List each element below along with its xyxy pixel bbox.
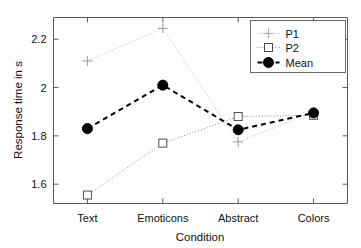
open-square-marker-icon	[234, 113, 242, 121]
x-tick-label: Emoticons	[137, 212, 189, 224]
response-time-line-chart: 1.61.822.2 TextEmoticonsAbstractColors R…	[0, 0, 361, 248]
open-square-marker-icon	[83, 191, 91, 199]
series-p2	[87, 115, 313, 195]
open-square-marker-icon	[265, 44, 273, 52]
series-line	[87, 85, 313, 130]
x-tick-label: Text	[77, 212, 97, 224]
x-tick-label: Colors	[298, 212, 330, 224]
filled-circle-marker-icon	[82, 124, 92, 134]
chart-figure: 1.61.822.2 TextEmoticonsAbstractColors R…	[0, 0, 361, 248]
legend-entry-mean[interactable]: Mean	[258, 57, 314, 69]
filled-circle-marker-icon	[233, 125, 243, 135]
x-axis-tick-labels: TextEmoticonsAbstractColors	[77, 212, 330, 224]
filled-circle-marker-icon	[264, 58, 274, 68]
legend-label: P1	[286, 28, 299, 40]
legend-label: Mean	[286, 57, 314, 69]
y-tick-label: 1.6	[31, 178, 46, 190]
y-axis-tick-labels: 1.61.822.2	[31, 33, 46, 190]
y-tick-label: 2.2	[31, 33, 46, 45]
plus-marker-icon	[158, 23, 168, 33]
x-axis-title: Condition	[176, 231, 225, 243]
markers-p2	[83, 111, 317, 199]
open-square-marker-icon	[159, 139, 167, 147]
series-mean	[87, 85, 313, 130]
y-tick-label: 2	[40, 82, 46, 94]
y-tick-label: 1.8	[31, 130, 46, 142]
x-tick-label: Abstract	[218, 212, 258, 224]
plus-marker-icon	[233, 137, 243, 147]
filled-circle-marker-icon	[158, 80, 168, 90]
plus-marker-icon	[82, 56, 92, 66]
legend-label: P2	[286, 42, 299, 54]
chart-legend: P1P2Mean	[251, 21, 346, 73]
y-axis-title: Response time in s	[12, 61, 24, 159]
filled-circle-marker-icon	[309, 108, 319, 118]
series-line	[87, 115, 313, 195]
